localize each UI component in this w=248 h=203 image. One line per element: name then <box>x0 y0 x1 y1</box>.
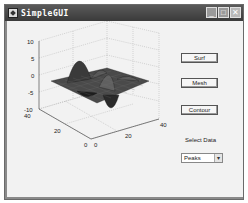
z-tick: 10 <box>27 39 34 45</box>
figure-client-area: 10 5 0 -5 -10 40 20 0 0 20 40 Surf Mesh … <box>5 21 243 199</box>
matlab-app-icon <box>8 8 18 18</box>
title-bar[interactable]: SimpleGUI _ □ ✕ <box>5 5 243 21</box>
x-tick: 0 <box>94 142 98 148</box>
window-title: SimpleGUI <box>21 9 69 18</box>
data-select-dropdown[interactable]: Peaks ▾ <box>181 153 223 163</box>
window-controls: _ □ ✕ <box>206 7 241 18</box>
x-tick: 20 <box>125 133 132 139</box>
x-tick: 40 <box>160 122 167 128</box>
y-tick: 40 <box>24 113 31 119</box>
y-tick: 0 <box>84 142 88 148</box>
y-tick: 20 <box>54 128 61 134</box>
close-button[interactable]: ✕ <box>230 7 241 18</box>
surface-plot-axes[interactable]: 10 5 0 -5 -10 40 20 0 0 20 40 <box>7 21 177 199</box>
maximize-button[interactable]: □ <box>218 7 229 18</box>
mesh-button[interactable]: Mesh <box>181 78 218 88</box>
app-window: SimpleGUI _ □ ✕ <box>4 4 244 200</box>
select-data-label: Select Data <box>185 137 216 143</box>
z-tick: 5 <box>31 56 35 62</box>
z-tick: -5 <box>28 90 34 96</box>
peaks-surface <box>51 61 149 108</box>
contour-button[interactable]: Contour <box>181 105 218 115</box>
z-tick: 0 <box>31 73 35 79</box>
surf-button[interactable]: Surf <box>181 53 218 63</box>
minimize-button[interactable]: _ <box>206 7 217 18</box>
dropdown-selected-value: Peaks <box>184 155 201 161</box>
chevron-down-icon[interactable]: ▾ <box>214 154 222 162</box>
